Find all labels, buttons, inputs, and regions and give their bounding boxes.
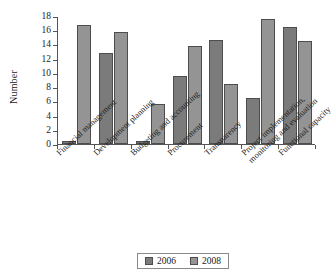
bar-2008 <box>77 25 91 144</box>
x-axis-tick <box>94 145 95 149</box>
y-axis-tick <box>53 131 57 132</box>
y-axis-title: Number <box>8 52 19 122</box>
chart-legend: 2006 2008 <box>137 253 229 269</box>
plot-area: 024681012141618 <box>57 17 315 145</box>
y-axis-tick-label: 8 <box>46 83 51 93</box>
legend-swatch-2006 <box>145 257 153 265</box>
x-axis-tick <box>278 145 279 149</box>
y-axis-tick-label: 2 <box>46 126 51 136</box>
bar-2008 <box>114 32 128 144</box>
legend-item-2008: 2008 <box>190 256 221 266</box>
bar-2006 <box>283 27 297 144</box>
bar-2008 <box>151 104 165 144</box>
y-axis-tick-label: 6 <box>46 98 51 108</box>
x-axis-line <box>57 144 315 145</box>
x-axis-tick <box>204 145 205 149</box>
bar-group <box>99 17 128 144</box>
y-axis-tick <box>53 102 57 103</box>
y-axis-tick-label: 14 <box>42 41 52 51</box>
x-axis-tick <box>241 145 242 149</box>
bar-2006 <box>99 53 113 144</box>
legend-label-2006: 2006 <box>157 256 176 266</box>
y-axis-tick <box>53 88 57 89</box>
y-axis-tick-label: 10 <box>42 69 52 79</box>
bar-2006 <box>209 40 223 144</box>
y-axis-tick <box>53 117 57 118</box>
bar-2006 <box>136 141 150 144</box>
legend-item-2006: 2006 <box>145 256 176 266</box>
bar-group <box>283 17 312 144</box>
legend-label-2008: 2008 <box>202 256 221 266</box>
bar-2008 <box>224 84 238 144</box>
y-axis-tick-label: 4 <box>46 112 51 122</box>
x-axis-tick <box>315 145 316 149</box>
bar-2008 <box>298 41 312 144</box>
bar-2008 <box>188 46 202 144</box>
bar-group <box>62 17 91 144</box>
bar-group <box>136 17 165 144</box>
y-axis-tick <box>53 31 57 32</box>
y-axis-tick-label: 12 <box>42 55 52 65</box>
x-axis-tick <box>131 145 132 149</box>
y-axis-tick <box>53 45 57 46</box>
bar-group <box>246 17 275 144</box>
y-axis-tick <box>53 60 57 61</box>
y-axis-tick-label: 0 <box>46 140 51 150</box>
bar-2008 <box>261 19 275 144</box>
x-axis-tick <box>57 145 58 149</box>
bar-group <box>209 17 238 144</box>
y-axis-tick-label: 16 <box>42 26 52 36</box>
y-axis-tick <box>53 74 57 75</box>
legend-swatch-2008 <box>190 257 198 265</box>
bar-2006 <box>173 76 187 144</box>
bar-2006 <box>62 141 76 144</box>
bar-2006 <box>246 98 260 144</box>
bars-layer <box>58 17 315 144</box>
x-axis-tick <box>168 145 169 149</box>
bar-group <box>173 17 202 144</box>
y-axis-tick <box>53 17 57 18</box>
y-axis-tick-label: 18 <box>42 12 52 22</box>
